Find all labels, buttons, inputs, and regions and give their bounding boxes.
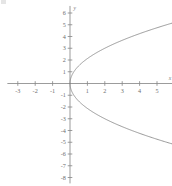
parabola-branch xyxy=(70,23,172,83)
y-tick-label: 2 xyxy=(63,56,66,63)
axis-names-group: xy xyxy=(72,5,171,81)
y-tick-label: -8 xyxy=(61,174,66,181)
x-tick-label: 5 xyxy=(155,87,158,94)
y-tick-label: 6 xyxy=(63,9,66,16)
y-tick-label: -1 xyxy=(61,91,66,98)
x-tick-label: -1 xyxy=(50,87,55,94)
y-tick-label: -5 xyxy=(61,138,66,145)
x-tick-label: -2 xyxy=(33,87,38,94)
x-tick-label: 2 xyxy=(103,87,106,94)
x-tick-label: 4 xyxy=(138,87,141,94)
y-tick-label: 4 xyxy=(63,33,66,40)
x-axis-name-label: x xyxy=(168,75,172,81)
x-tick-label: 3 xyxy=(121,87,124,94)
axes-group xyxy=(7,6,172,183)
y-tick-label: 3 xyxy=(63,44,66,51)
plot-canvas: -3-2-112345654321-1-2-3-4-5-6-7-8 xy xyxy=(0,0,172,186)
tick-marks-group xyxy=(18,13,157,178)
y-tick-label: -3 xyxy=(61,115,66,122)
y-tick-label: 5 xyxy=(63,21,66,28)
y-tick-label: -6 xyxy=(61,150,66,157)
y-tick-label: -2 xyxy=(61,103,66,110)
y-tick-label: 1 xyxy=(63,68,66,75)
parabola-plot-figure: -3-2-112345654321-1-2-3-4-5-6-7-8 xy xyxy=(0,0,172,186)
y-axis-name-label: y xyxy=(72,5,76,11)
y-tick-label: -7 xyxy=(61,162,66,169)
x-tick-label: -3 xyxy=(15,87,20,94)
y-tick-label: -4 xyxy=(61,127,66,134)
x-tick-label: 1 xyxy=(86,87,89,94)
